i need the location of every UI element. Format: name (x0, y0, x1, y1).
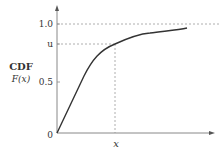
y-tick-label-1: 1.0 (39, 19, 54, 29)
y-axis-label: F(x) (11, 74, 31, 84)
y-axis-arrow-icon (55, 5, 59, 11)
x-axis-label: x (113, 138, 119, 149)
cdf-curve (57, 28, 187, 133)
y-tick-label-u: u (47, 39, 53, 49)
cdf-title: CDF (9, 61, 33, 72)
y-tick-label-0: 0 (47, 130, 53, 140)
x-axis-arrow-icon (209, 131, 215, 135)
y-tick-label-05: 0.5 (39, 77, 54, 87)
cdf-diagram: 1.0 u 0.5 0 CDF F(x) x (0, 0, 223, 150)
